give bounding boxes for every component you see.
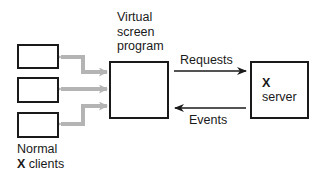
- virtual-screen-program-label: Virtual screen program: [117, 10, 164, 54]
- x-server-x-label: X: [262, 76, 270, 91]
- clients-word-label: clients: [25, 157, 64, 171]
- clients-label-line2: X clients: [17, 157, 64, 172]
- client-box-2: [17, 77, 59, 103]
- virtual-label-line2: screen: [117, 25, 164, 40]
- client-box-1: [17, 44, 59, 69]
- x-server-box: X server: [250, 61, 309, 119]
- virtual-label-line1: Virtual: [117, 10, 164, 25]
- requests-label: Requests: [180, 53, 233, 68]
- client-1-link-arrow: [61, 57, 107, 72]
- x-server-word-label: server: [262, 90, 297, 105]
- client-3-link-arrow: [61, 106, 107, 124]
- normal-x-clients-label: Normal X clients: [17, 142, 64, 171]
- events-label: Events: [189, 113, 227, 128]
- virtual-screen-program-box: [109, 61, 169, 119]
- virtual-label-line3: program: [117, 39, 164, 54]
- client-box-3: [17, 112, 59, 138]
- clients-label-line1: Normal: [17, 142, 64, 157]
